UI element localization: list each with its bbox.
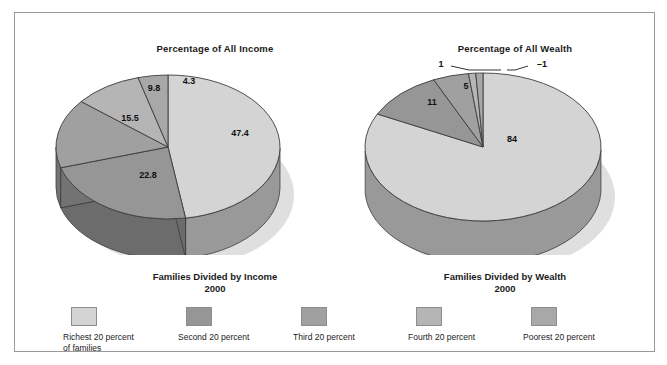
- legend-title-wealth-line1: Families Divided by Wealth: [380, 271, 630, 283]
- legend-label-1: Second 20 percent: [178, 332, 290, 343]
- legend-title-wealth: Families Divided by Wealth 2000: [380, 271, 630, 295]
- legend-label-1-line1: Second 20 percent: [178, 332, 290, 343]
- legend-label-0-line1: Richest 20 percent: [63, 332, 175, 343]
- figure-root: Percentage of All Income Percentage of A…: [0, 0, 667, 365]
- pie-chart-wealth: [360, 55, 650, 255]
- legend-item-2[interactable]: Third 20 percent: [293, 307, 413, 343]
- legend-item-1[interactable]: Second 20 percent: [178, 307, 298, 343]
- figure-frame: Percentage of All Income Percentage of A…: [14, 12, 655, 352]
- legend-swatch-0: [71, 307, 97, 326]
- slice-label-income-2: 22.8: [128, 170, 168, 180]
- legend-label-0-line2: of families: [63, 343, 175, 354]
- legend-swatch-1: [186, 307, 212, 326]
- slice-label-wealth-1: 84: [497, 134, 527, 144]
- legend-label-2-line1: Third 20 percent: [293, 332, 405, 343]
- legend-item-0[interactable]: Richest 20 percent of families: [63, 307, 183, 353]
- slice-label-income-5: 4.3: [174, 76, 204, 86]
- legend-label-4: Poorest 20 percent: [523, 332, 635, 343]
- legend-label-0: Richest 20 percent of families: [63, 332, 175, 353]
- legend-label-2: Third 20 percent: [293, 332, 405, 343]
- legend-title-wealth-line2: 2000: [380, 283, 630, 295]
- legend-swatch-2: [301, 307, 327, 326]
- slice-label-income-1: 47.4: [220, 128, 260, 138]
- legend-title-income: Families Divided by Income 2000: [90, 271, 340, 295]
- slice-label-income-3: 15.5: [110, 113, 150, 123]
- legend-swatch-3: [416, 307, 442, 326]
- legend-item-3[interactable]: Fourth 20 percent: [408, 307, 528, 343]
- slice-label-wealth-2: 11: [420, 97, 444, 107]
- leader-lines-wealth: [415, 53, 575, 83]
- chart-title-income: Percentage of All Income: [75, 43, 355, 54]
- legend-item-4[interactable]: Poorest 20 percent: [523, 307, 643, 343]
- legend-label-3-line1: Fourth 20 percent: [408, 332, 520, 343]
- legend-title-income-line1: Families Divided by Income: [90, 271, 340, 283]
- legend-label-3: Fourth 20 percent: [408, 332, 520, 343]
- legend-label-4-line1: Poorest 20 percent: [523, 332, 635, 343]
- legend-swatch-4: [531, 307, 557, 326]
- legend-title-income-line2: 2000: [90, 283, 340, 295]
- slice-label-income-4: 9.8: [139, 83, 169, 93]
